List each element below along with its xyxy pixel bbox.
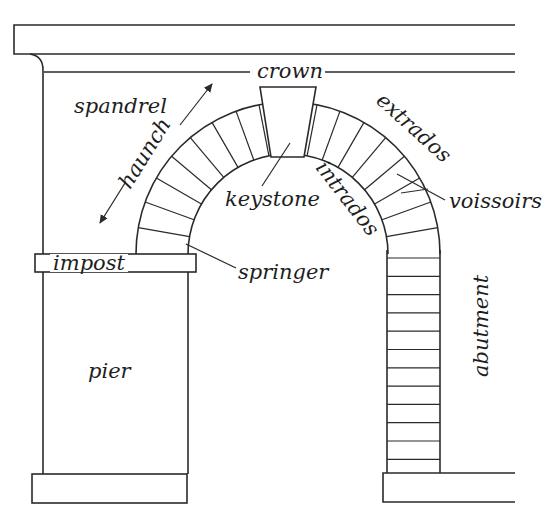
label-keystone: keystone [225,187,320,211]
arch-diagram: crown spandrel haunch keystone extrados … [0,0,552,523]
label-impost: impost [53,251,125,275]
label-pier: pier [88,359,133,383]
pier-base [32,474,187,503]
label-intrados: intrados [311,156,384,240]
haunch-arrow-down [100,183,125,223]
voissoirs-leader-2 [401,189,428,193]
label-extrados: extrados [372,88,457,168]
label-spandrel: spandrel [74,94,167,118]
abutment-base [383,473,515,502]
cornice [14,25,515,54]
label-crown: crown [257,59,323,83]
abutment-column [387,250,440,473]
label-springer: springer [238,260,330,284]
label-abutment: abutment [469,274,493,377]
haunch-arrow-up [180,84,212,125]
label-voissoirs: voissoirs [449,189,542,213]
label-haunch: haunch [114,113,176,192]
